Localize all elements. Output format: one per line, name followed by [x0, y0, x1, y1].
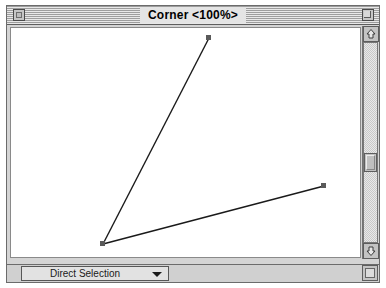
vector-artwork [11, 28, 360, 257]
top-anchor-point[interactable] [206, 35, 211, 40]
drawing-canvas[interactable] [10, 27, 361, 258]
screen: Corner <100%> [0, 0, 386, 288]
chevron-down-icon[interactable] [152, 272, 162, 277]
zoom-box-icon[interactable] [362, 9, 374, 21]
title-bar-inner: Corner <100%> [7, 6, 379, 24]
arrow-down-icon[interactable] [363, 243, 379, 259]
lower-segment[interactable] [103, 186, 324, 244]
status-bar: Direct Selection [7, 264, 379, 282]
right-anchor-point[interactable] [321, 183, 326, 188]
resize-grip-icon[interactable] [362, 265, 378, 281]
arrow-up-icon[interactable] [363, 26, 379, 42]
corner-anchor-point[interactable] [100, 241, 105, 246]
window-title: Corner <100%> [140, 7, 246, 23]
vertical-scroll-thumb[interactable] [364, 153, 377, 172]
document-window: Corner <100%> [6, 5, 380, 283]
vertical-scrollbar[interactable] [362, 26, 378, 259]
tool-popup-label: Direct Selection [22, 267, 148, 280]
close-box-icon[interactable] [13, 9, 25, 21]
vertical-scroll-track[interactable] [363, 42, 378, 243]
tool-popup-menu[interactable]: Direct Selection [21, 266, 169, 281]
upper-segment[interactable] [103, 38, 209, 244]
title-bar[interactable]: Corner <100%> [7, 6, 379, 25]
